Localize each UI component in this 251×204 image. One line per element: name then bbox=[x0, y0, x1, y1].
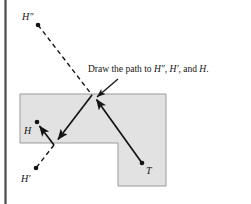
caption-sep-2: , and bbox=[178, 64, 199, 74]
caption-prefix: Draw the path to bbox=[88, 64, 154, 74]
label-t: T bbox=[146, 166, 152, 176]
point-h bbox=[35, 120, 40, 125]
diagram-svg bbox=[0, 0, 251, 204]
figure-canvas: H″ H H′ T Draw the path to H″, H′, and H… bbox=[0, 0, 251, 204]
label-h-prime: H′ bbox=[21, 174, 30, 184]
caption-text: Draw the path to H″, H′, and H. bbox=[88, 64, 209, 74]
point-h-prime bbox=[34, 166, 39, 171]
dashed-line-hprime bbox=[36, 145, 54, 168]
caption-target-1: H″ bbox=[154, 64, 165, 74]
point-t bbox=[140, 161, 145, 166]
region-polygon bbox=[20, 94, 166, 186]
point-h-double-prime bbox=[36, 23, 41, 28]
dashed-line-hdoubleprime bbox=[38, 25, 92, 95]
caption-suffix: . bbox=[206, 64, 208, 74]
label-h: H bbox=[24, 126, 31, 136]
label-h-double-prime: H″ bbox=[22, 12, 33, 22]
